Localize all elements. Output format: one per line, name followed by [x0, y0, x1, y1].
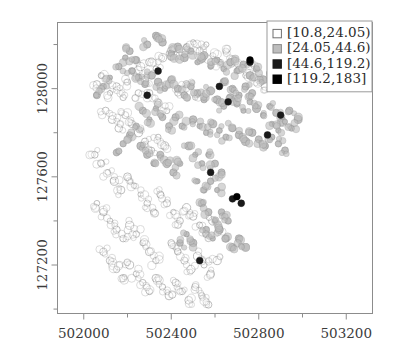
data-point	[117, 121, 124, 128]
data-point	[195, 148, 202, 155]
y-tick-label: 127200	[34, 239, 50, 291]
data-point	[231, 57, 239, 65]
data-point	[113, 64, 119, 70]
data-point	[166, 212, 172, 218]
data-point	[222, 218, 227, 223]
data-point	[138, 187, 145, 194]
data-point	[206, 161, 214, 169]
data-point	[246, 129, 253, 136]
data-point	[184, 269, 190, 275]
data-point	[175, 111, 183, 119]
data-point	[165, 127, 171, 133]
data-point	[165, 159, 172, 166]
data-point	[239, 244, 245, 250]
data-point	[270, 100, 276, 106]
data-point	[116, 192, 122, 198]
data-point	[210, 49, 218, 57]
x-tick-label: 503200	[320, 325, 372, 341]
data-point	[148, 261, 156, 269]
y-tick-label: 128000	[34, 63, 50, 115]
data-point	[282, 119, 287, 124]
data-point	[152, 160, 159, 167]
data-point	[200, 165, 206, 171]
data-point	[120, 127, 126, 133]
data-point	[109, 112, 116, 119]
data-point	[161, 202, 167, 208]
y-tick-label: 127600	[34, 151, 50, 203]
data-point	[118, 108, 125, 115]
data-point	[135, 102, 143, 110]
data-point	[241, 86, 247, 92]
data-point	[97, 108, 104, 115]
x-tick-label: 502800	[233, 325, 285, 341]
data-point	[104, 92, 112, 100]
data-point	[116, 148, 122, 154]
data-point	[278, 129, 285, 136]
data-point	[218, 171, 225, 178]
data-point	[222, 45, 230, 53]
data-point	[122, 45, 129, 52]
data-point	[197, 53, 205, 61]
data-point	[175, 281, 181, 287]
data-point	[147, 248, 154, 255]
data-point	[201, 211, 209, 219]
data-point	[173, 172, 180, 179]
data-point	[222, 235, 229, 242]
data-point	[110, 178, 116, 184]
data-point	[155, 68, 162, 75]
data-point	[266, 122, 274, 130]
data-point	[90, 203, 96, 209]
data-point	[216, 83, 223, 90]
data-point	[218, 61, 224, 67]
data-point	[142, 109, 150, 117]
data-point	[123, 82, 131, 90]
legend-swatch-1	[273, 29, 281, 37]
data-point	[123, 136, 130, 143]
data-point	[182, 117, 190, 125]
data-point	[180, 230, 186, 236]
data-point	[157, 87, 163, 93]
data-point	[133, 183, 139, 189]
data-point	[94, 92, 99, 97]
data-point	[218, 183, 226, 191]
data-point	[182, 245, 187, 250]
data-point	[130, 68, 135, 73]
data-point	[124, 259, 131, 266]
data-point	[198, 290, 204, 296]
data-point	[155, 275, 162, 282]
data-point	[181, 143, 187, 149]
data-point	[285, 124, 292, 131]
data-point	[103, 205, 110, 212]
data-point	[207, 132, 213, 138]
data-point	[189, 302, 195, 308]
data-point	[204, 124, 211, 131]
x-tick-label: 502400	[145, 325, 197, 341]
data-point	[152, 210, 159, 217]
data-point	[158, 113, 164, 119]
data-point	[246, 108, 251, 113]
data-point	[156, 187, 162, 193]
data-point	[143, 80, 149, 86]
data-point	[192, 282, 199, 289]
data-point	[207, 169, 214, 176]
data-point	[144, 284, 151, 291]
data-point	[238, 200, 245, 207]
legend-swatch-4	[273, 75, 281, 83]
data-point	[189, 154, 197, 162]
data-point	[225, 98, 232, 105]
data-point	[165, 197, 170, 202]
data-point	[97, 159, 103, 165]
data-point	[177, 236, 184, 243]
scatter-map-figure: 502000502400502800503200 127200127600128…	[0, 0, 412, 364]
data-point	[254, 63, 262, 71]
legend-swatch-2	[273, 45, 281, 53]
data-point	[96, 246, 103, 253]
data-point	[154, 101, 161, 108]
data-point	[231, 72, 239, 80]
chart-svg: 502000502400502800503200 127200127600128…	[0, 0, 412, 364]
data-point	[136, 276, 141, 281]
data-point	[118, 275, 125, 282]
data-point	[202, 90, 210, 98]
data-point	[111, 229, 117, 235]
data-point	[170, 80, 178, 88]
